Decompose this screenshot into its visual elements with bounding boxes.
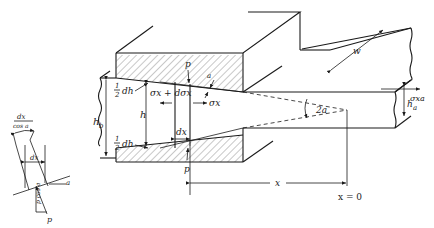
upper-die [116,12,330,92]
sigma-xa-label: σxa [410,94,425,103]
two-alpha-label: 2a [315,105,327,115]
x-label: x [275,178,280,188]
p-bottom-label: p [184,164,190,174]
lower-die [116,128,273,162]
x-zero-label: x = 0 [338,192,362,202]
inset-dx-label: dx [30,154,38,162]
inset-cos-den: cos a [13,122,29,129]
x-dimension: x x = 0 [190,178,362,202]
sigma-left-label: σx + dσx [150,88,191,98]
alpha-top-label: a [207,72,211,80]
p-top-label: p [185,59,191,69]
w-dimension: w [331,30,383,70]
inset-alpha-label: a [66,179,70,187]
half-den: 2 [114,91,120,99]
strip [99,28,413,158]
dh-label: dh [122,86,134,96]
inset-dx-num: dx [17,113,25,121]
hb-subscript: b [99,122,104,130]
w-label: w [353,46,361,56]
differential-element [175,82,190,195]
half-num: 1 [115,82,119,90]
half-num: 1 [115,135,119,143]
diagram-canvas: h b 1 2 dh 1 2 dh h σx + dσx σx dx p p [0,0,434,228]
inset-p-label: p [47,215,52,224]
dx-label: dx [176,127,187,137]
h-dimension: h [140,84,146,146]
exit-stress: σxa [381,89,425,103]
stress-arrows: σx + dσx σx [150,88,220,108]
die-angle-lines [243,92,347,186]
dx-dimension: dx [175,127,190,139]
sigma-right-label: σx [209,98,220,108]
inset-pcos-label: p cos a [34,182,42,204]
half-dh-top: 1 2 dh [114,82,148,99]
dh-label: dh [122,139,134,149]
strip-drawing-diagram: h b 1 2 dh 1 2 dh h σx + dσx σx dx p p [0,0,434,228]
force-resolution-inset: a dx dx cos a p cos a p [13,113,70,224]
ha-subscript: a [413,104,417,112]
h-label: h [140,109,146,120]
half-den: 2 [114,144,120,152]
